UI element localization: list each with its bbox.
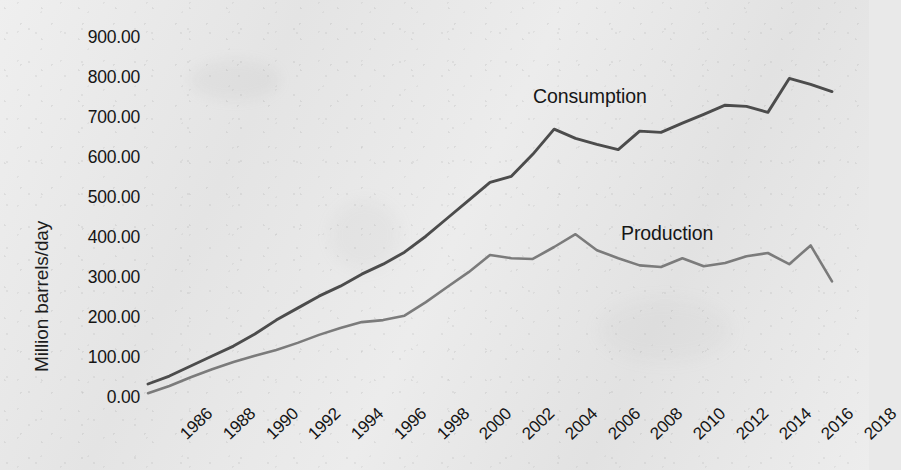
series-label-production: Production [621,224,713,244]
series-label-consumption: Consumption [533,87,647,107]
series-line-consumption [148,78,832,384]
series-line-production [148,234,832,393]
